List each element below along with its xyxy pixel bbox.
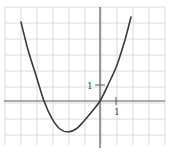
plot-area <box>0 0 170 154</box>
grid-lines <box>5 7 165 145</box>
x-tick-label: 1 <box>114 108 120 117</box>
y-tick-label: 1 <box>87 82 93 91</box>
graph: 1 1 <box>0 0 170 154</box>
